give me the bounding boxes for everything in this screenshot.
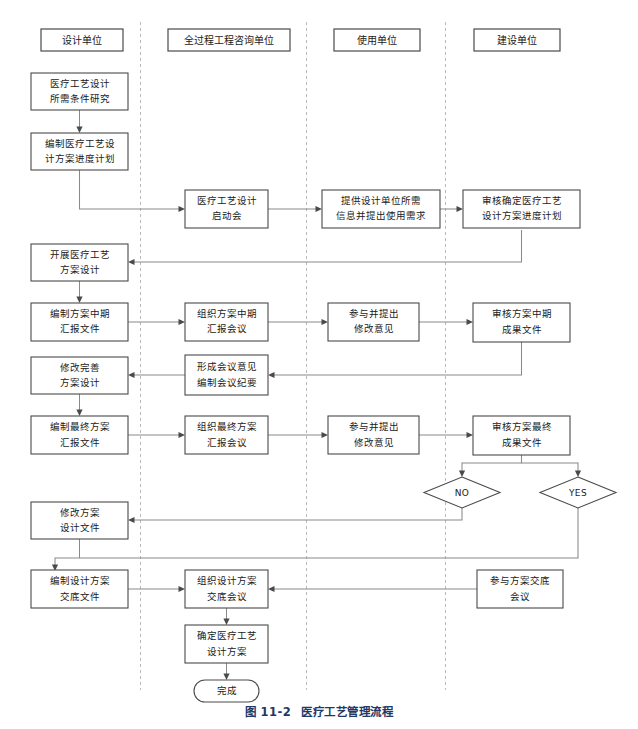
node-n3-line1: 医疗工艺设计 (197, 195, 257, 206)
node-n11-line1: 修改完善 (60, 362, 100, 373)
node-n8-line1: 组织方案中期 (197, 308, 257, 319)
node-n16: 审核方案最终 成果文件 (473, 416, 570, 455)
node-n4-line1: 提供设计单位所需 (341, 195, 421, 206)
edge-d1-n17 (134, 508, 462, 520)
node-n18: 编制设计方案 交底文件 (31, 570, 128, 608)
node-n21-line1: 确定医疗工艺 (197, 630, 257, 641)
node-n7-line2: 汇报文件 (60, 323, 100, 334)
node-n21-line2: 设计方案 (207, 646, 247, 657)
edge-arrow (179, 206, 186, 212)
node-n8: 组织方案中期 汇报会议 (185, 303, 268, 341)
node-n11-line2: 方案设计 (60, 377, 100, 388)
lane-header-1-label: 设计单位 (62, 34, 102, 46)
node-n18-line1: 编制设计方案 (50, 575, 110, 586)
node-n10: 审核方案中期 成果文件 (473, 303, 570, 342)
node-n14-line1: 组织最终方案 (197, 421, 257, 432)
edge-arrow (457, 206, 464, 212)
node-n1: 医疗工艺设计 所需条件研究 (31, 73, 128, 110)
node-n19-line1: 组织设计方案 (197, 575, 257, 586)
node-n7-line1: 编制方案中期 (50, 308, 110, 319)
edge-arrow (76, 410, 82, 417)
node-n19-line2: 交底会议 (207, 591, 247, 602)
figure-caption-title: 医疗工艺管理流程 (301, 705, 393, 719)
node-d1-label: NO (455, 488, 470, 498)
node-n4-line2: 信息并提出使用需求 (336, 210, 426, 221)
edge-arrow (316, 206, 323, 212)
node-n4: 提供设计单位所需 信息并提出使用需求 (322, 190, 440, 228)
node-n8-line2: 汇报会议 (207, 323, 247, 334)
node-n9-line1: 参与并提出 (349, 308, 399, 319)
edge-arrow (179, 432, 186, 438)
node-d2-label: YES (568, 488, 587, 498)
node-n7: 编制方案中期 汇报文件 (31, 303, 128, 341)
node-n14-line2: 汇报会议 (207, 437, 247, 448)
lane-header-1: 设计单位 (41, 29, 123, 51)
node-n5-line1: 审核确定医疗工艺 (482, 195, 562, 206)
node-n19: 组织设计方案 交底会议 (185, 570, 268, 608)
node-n17: 修改方案 设计文件 (31, 502, 128, 539)
node-n12: 形成会议意见 编制会议纪要 (185, 355, 268, 395)
edge-arrow (223, 619, 229, 626)
node-n15-line2: 修改意见 (354, 437, 394, 448)
node-d1-decision-no: NO (424, 477, 500, 508)
node-n12-line2: 编制会议纪要 (197, 377, 257, 388)
node-n16-line2: 成果文件 (502, 437, 542, 448)
node-n11: 修改完善 方案设计 (31, 357, 128, 394)
node-n22-terminal: 完成 (194, 680, 259, 702)
edge-arrow (128, 259, 135, 265)
figure-caption: 图 11-2医疗工艺管理流程 (0, 703, 638, 719)
node-n1-line1: 医疗工艺设计 (50, 78, 110, 89)
edge-n2-n3 (80, 170, 180, 209)
lane-header-4-label: 建设单位 (497, 34, 537, 46)
edge-arrow (128, 517, 135, 523)
edge-arrow (76, 127, 82, 134)
flowchart-svg: 设计单位 全过程工程咨询单位 使用单位 建设单位 医疗工艺设计 所需条件研究 (0, 0, 638, 729)
node-n20-line2: 会议 (510, 591, 530, 602)
edge-arrow (467, 319, 474, 325)
edge-arrow (322, 432, 329, 438)
node-n18-line2: 交底文件 (60, 591, 100, 602)
edge-arrow (179, 319, 186, 325)
node-n2: 编制医疗工艺设 计方案进度计划 (31, 133, 128, 170)
node-n5: 审核确定医疗工艺 设计方案进度计划 (463, 190, 580, 228)
node-n9: 参与并提出 修改意见 (328, 303, 419, 341)
node-n6-line2: 方案设计 (60, 264, 100, 275)
figure-caption-number: 图 11-2 (245, 705, 292, 719)
edge-arrow (322, 319, 329, 325)
node-n3-line2: 启动会 (212, 210, 242, 221)
node-n17-line2: 设计文件 (60, 522, 100, 533)
lane-header-3-label: 使用单位 (357, 34, 397, 46)
edge-arrow (575, 471, 581, 478)
node-n6: 开展医疗工艺 方案设计 (31, 244, 128, 281)
edge-n5-n6 (134, 230, 522, 262)
edge-arrow (268, 586, 275, 592)
node-n6-line1: 开展医疗工艺 (50, 249, 110, 260)
node-n21: 确定医疗工艺 设计方案 (185, 625, 268, 663)
node-n3: 医疗工艺设计 启动会 (185, 190, 268, 228)
node-n5-line2: 设计方案进度计划 (482, 210, 562, 221)
edge-n16-d1 (462, 455, 522, 471)
node-n20-line1: 参与方案交底 (490, 575, 550, 586)
edge-n16-d2 (522, 463, 579, 471)
node-n1-line2: 所需条件研究 (50, 93, 110, 104)
node-n9-line2: 修改意见 (354, 323, 394, 334)
node-n17-line1: 修改方案 (60, 507, 100, 518)
edge-n10-n12 (274, 342, 522, 375)
node-n13-line2: 汇报文件 (60, 437, 100, 448)
node-n13-line1: 编制最终方案 (50, 421, 110, 432)
node-n12-line1: 形成会议意见 (197, 361, 257, 372)
lane-header-row: 设计单位 全过程工程咨询单位 使用单位 建设单位 (41, 29, 560, 51)
lane-header-2: 全过程工程咨询单位 (168, 29, 290, 51)
edge-arrow (223, 674, 229, 681)
node-d2-decision-yes: YES (540, 477, 616, 508)
node-n2-line1: 编制医疗工艺设 (45, 138, 115, 149)
node-n20: 参与方案交底 会议 (477, 570, 563, 608)
edge-d2-n18 (55, 508, 578, 565)
node-n15-line1: 参与并提出 (349, 421, 399, 432)
node-n15: 参与并提出 修改意见 (328, 416, 419, 454)
edge-arrow (128, 372, 135, 378)
node-n2-line2: 计方案进度计划 (45, 153, 115, 164)
node-n22-label: 完成 (217, 685, 237, 696)
lane-header-2-label: 全过程工程咨询单位 (184, 34, 274, 46)
edge-arrow (459, 471, 465, 478)
